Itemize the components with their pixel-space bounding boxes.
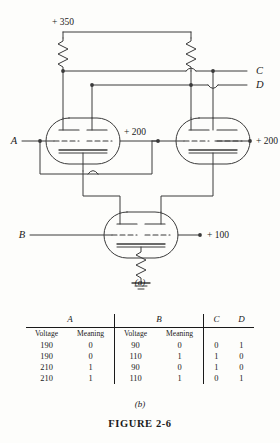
output-c-label: C: [256, 65, 264, 76]
panel-a-label: (a): [0, 277, 280, 287]
supply-rail-350: [63, 32, 191, 38]
supply-label: + 350: [52, 17, 74, 27]
cell-b-meaning: 1: [156, 373, 203, 384]
cell-c: 1: [203, 351, 228, 362]
cell-a-meaning: 0: [67, 340, 114, 351]
cell-b-meaning: 1: [156, 351, 203, 362]
truth-table: A B C D Voltage Meaning Voltage Meaning …: [26, 314, 254, 384]
group-header-a: A: [26, 314, 114, 327]
output-c-wire: [63, 68, 247, 71]
sub-header-a-voltage: Voltage: [26, 327, 67, 340]
cell-b-voltage: 90: [114, 340, 156, 351]
right-tube-cathode-lead: [161, 153, 213, 212]
bottom-tube-output-label: + 100: [207, 230, 229, 240]
cell-c: 1: [203, 362, 228, 373]
sub-header-a-meaning: Meaning: [67, 327, 114, 340]
sub-header-c-blank: [203, 327, 228, 340]
circuit-diagram: + 350 A B C D + 200 + 200 + 100: [0, 0, 280, 300]
table-row: 190 0 110 1 1 0: [26, 351, 254, 362]
plate-load-resistor-left-symbol: [58, 38, 68, 71]
cell-b-voltage: 90: [114, 362, 156, 373]
cell-d: 0: [229, 362, 254, 373]
figure-caption: FIGURE 2-6: [0, 418, 280, 429]
cell-b-meaning: 0: [156, 362, 203, 373]
a-node-loop: [40, 141, 98, 174]
plate-load-resistor-right-symbol: [186, 38, 196, 71]
right-tube-grid-wire: [98, 141, 184, 174]
input-a-label: A: [10, 135, 18, 146]
cell-d: 0: [229, 351, 254, 362]
input-b-label: B: [19, 229, 26, 240]
cell-b-voltage: 110: [114, 351, 156, 362]
output-d-wire: [92, 85, 247, 89]
truth-table-container: A B C D Voltage Meaning Voltage Meaning …: [26, 314, 254, 384]
table-row: 190 0 90 0 0 1: [26, 340, 254, 351]
cell-a-meaning: 0: [67, 351, 114, 362]
cell-c: 0: [203, 373, 228, 384]
cell-a-voltage: 190: [26, 351, 67, 362]
right-tube-output-label: + 200: [256, 136, 278, 146]
sub-header-b-meaning: Meaning: [156, 327, 203, 340]
sub-header-b-voltage: Voltage: [114, 327, 156, 340]
group-header-b: B: [114, 314, 203, 327]
cell-a-voltage: 190: [26, 340, 67, 351]
table-group-header-row: A B C D: [26, 314, 254, 327]
table-row: 210 1 90 0 1 0: [26, 362, 254, 373]
output-d-label: D: [255, 79, 264, 90]
panel-b-label: (b): [0, 399, 280, 409]
table-sub-header-row: Voltage Meaning Voltage Meaning: [26, 327, 254, 340]
sub-header-d-blank: [229, 327, 254, 340]
left-tube-output-label: + 200: [124, 127, 146, 137]
truth-table-body: 190 0 90 0 0 1 190 0 110 1 1 0 210: [26, 340, 254, 384]
cell-a-voltage: 210: [26, 362, 67, 373]
group-header-d: D: [229, 314, 254, 327]
figure-page: + 350 A B C D + 200 + 200 + 100 (a) A B …: [0, 0, 280, 443]
cell-a-meaning: 1: [67, 373, 114, 384]
cell-b-voltage: 110: [114, 373, 156, 384]
cell-a-voltage: 210: [26, 373, 67, 384]
cell-b-meaning: 0: [156, 340, 203, 351]
cell-d: 1: [229, 340, 254, 351]
cell-d: 1: [229, 373, 254, 384]
cell-a-meaning: 1: [67, 362, 114, 373]
table-row: 210 1 110 1 0 1: [26, 373, 254, 384]
left-tube-cathode-lead: [83, 153, 120, 212]
group-header-c: C: [203, 314, 228, 327]
cell-c: 0: [203, 340, 228, 351]
